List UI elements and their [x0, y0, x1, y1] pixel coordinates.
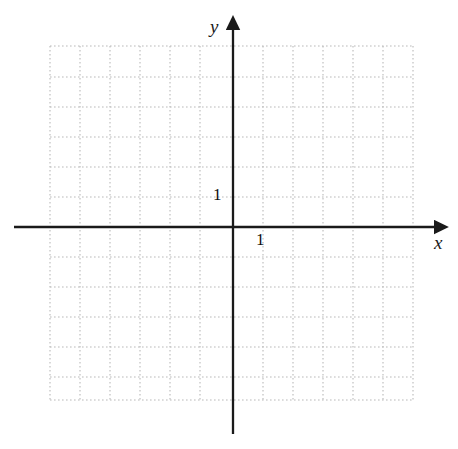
coordinate-plane: [0, 0, 458, 449]
coordinate-plane-svg: [0, 0, 458, 449]
x-axis-label: x: [434, 232, 442, 254]
grid-horizontal-lines: [50, 46, 413, 400]
figure-canvas: y x 1 1: [0, 0, 458, 449]
y-axis-tick-label-1: 1: [213, 185, 222, 205]
x-axis-tick-label-1: 1: [256, 230, 265, 250]
y-axis-label: y: [210, 16, 218, 38]
